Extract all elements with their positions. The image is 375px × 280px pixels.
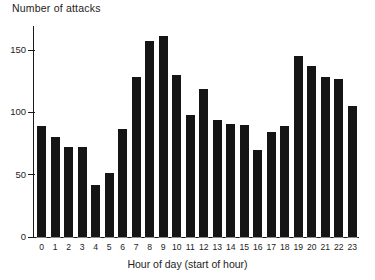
x-axis-tick-label: 13 [211, 240, 225, 256]
bar-slot [130, 22, 144, 237]
bar [199, 89, 208, 237]
x-axis-tick-label: 14 [224, 240, 238, 256]
x-axis-tick-label: 23 [346, 240, 360, 256]
bar-slot [292, 22, 306, 237]
y-axis-tick [28, 112, 35, 113]
bar-slot [224, 22, 238, 237]
bar-series [35, 22, 359, 237]
bar-slot [346, 22, 360, 237]
bar-slot [103, 22, 117, 237]
bar [253, 150, 262, 237]
x-axis-tick-label: 16 [251, 240, 265, 256]
bar [37, 126, 46, 237]
bar [118, 129, 127, 237]
bar-slot [62, 22, 76, 237]
bar-slot [35, 22, 49, 237]
bar [51, 137, 60, 237]
y-axis-tick-labels: 050100150 [0, 0, 26, 280]
bar-slot [251, 22, 265, 237]
bar [213, 120, 222, 237]
bar-slot [76, 22, 90, 237]
bar-slot [319, 22, 333, 237]
bar [159, 36, 168, 237]
bar [172, 75, 181, 237]
y-axis-tick-label: 0 [0, 231, 26, 242]
bar-slot [305, 22, 319, 237]
bar-slot [89, 22, 103, 237]
bar-slot [211, 22, 225, 237]
x-axis-tick-label: 3 [76, 240, 90, 256]
bar [105, 173, 114, 237]
bar [78, 147, 87, 237]
x-axis-tick-label: 15 [238, 240, 252, 256]
bar [267, 132, 276, 237]
bar [321, 77, 330, 237]
x-axis-tick-label: 22 [332, 240, 346, 256]
bar-chart: Number of attacks 050100150 012345678910… [0, 0, 375, 280]
bar [226, 124, 235, 237]
bar-slot [157, 22, 171, 237]
y-axis-tick [28, 237, 35, 238]
x-axis-tick-labels: 01234567891011121314151617181920212223 [35, 240, 359, 256]
x-axis-tick-label: 12 [197, 240, 211, 256]
x-axis-tick-label: 1 [49, 240, 63, 256]
x-axis-tick-label: 10 [170, 240, 184, 256]
x-axis-tick-label: 4 [89, 240, 103, 256]
x-axis-tick-label: 20 [305, 240, 319, 256]
bar-slot [49, 22, 63, 237]
bar-slot [332, 22, 346, 237]
x-axis-tick-label: 17 [265, 240, 279, 256]
bar [307, 66, 316, 237]
y-axis-tick-label: 100 [0, 106, 26, 117]
y-axis-tick-label: 150 [0, 44, 26, 55]
bar [294, 56, 303, 237]
bar-slot [116, 22, 130, 237]
x-axis-tick-label: 6 [116, 240, 130, 256]
bar-slot [238, 22, 252, 237]
bar-slot [184, 22, 198, 237]
bar [145, 41, 154, 237]
bar-slot [265, 22, 279, 237]
x-axis-tick-label: 5 [103, 240, 117, 256]
x-axis-tick-label: 0 [35, 240, 49, 256]
bar-slot [143, 22, 157, 237]
x-axis-line [33, 237, 359, 238]
x-axis-tick-label: 8 [143, 240, 157, 256]
y-axis-tick [28, 174, 35, 175]
x-axis-tick-label: 7 [130, 240, 144, 256]
bar-slot [197, 22, 211, 237]
bar [334, 79, 343, 237]
bar [91, 185, 100, 237]
bar [280, 126, 289, 237]
bar [186, 115, 195, 237]
x-axis-tick-label: 21 [319, 240, 333, 256]
bar-slot [170, 22, 184, 237]
y-axis-tick-label: 50 [0, 169, 26, 180]
bar [132, 77, 141, 237]
bar [348, 106, 357, 237]
x-axis-tick-label: 19 [292, 240, 306, 256]
x-axis-tick-label: 11 [184, 240, 198, 256]
bar-slot [278, 22, 292, 237]
x-axis-tick-label: 2 [62, 240, 76, 256]
x-axis-title: Hour of day (start of hour) [0, 258, 375, 270]
x-axis-tick-label: 9 [157, 240, 171, 256]
bar [240, 125, 249, 237]
x-axis-tick-label: 18 [278, 240, 292, 256]
y-axis-tick [28, 50, 35, 51]
bar [64, 147, 73, 237]
